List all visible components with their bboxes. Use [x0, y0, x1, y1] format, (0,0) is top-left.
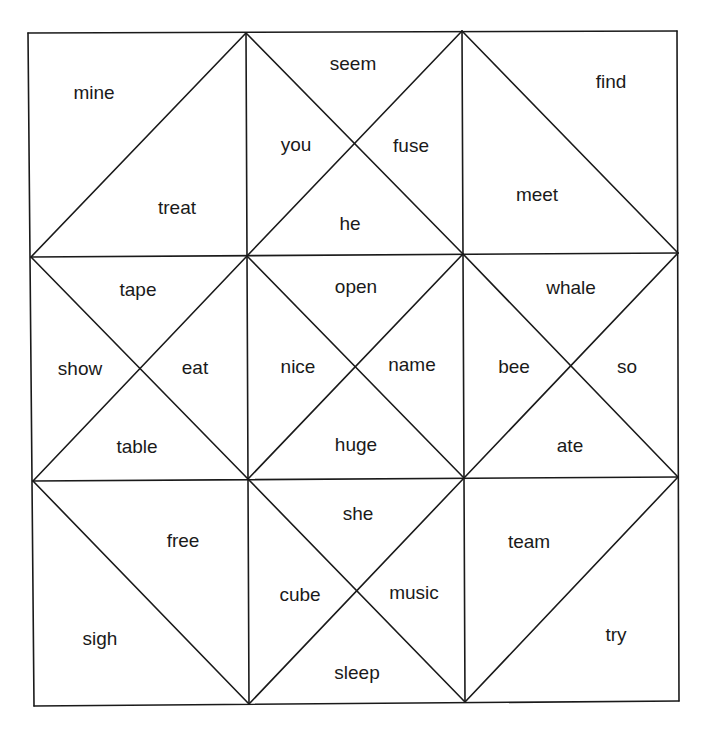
cell-diagonals [31, 31, 678, 704]
diagonal-r0c0 [31, 33, 246, 257]
word-bee: bee [498, 357, 530, 376]
diagonal-r2c0 [33, 481, 249, 704]
word-he: he [339, 214, 360, 233]
word-find: find [596, 72, 627, 91]
word-huge: huge [335, 435, 377, 454]
word-team: team [508, 532, 550, 551]
word-nice: nice [281, 357, 316, 376]
word-eat: eat [182, 358, 208, 377]
word-ate: ate [557, 436, 583, 455]
word-whale: whale [546, 278, 596, 297]
word-try: try [605, 625, 626, 644]
word-name: name [388, 355, 436, 374]
puzzle-grid [0, 0, 710, 733]
word-she: she [343, 504, 374, 523]
word-so: so [617, 357, 637, 376]
word-fuse: fuse [393, 136, 429, 155]
diagonal-r2c2 [465, 477, 678, 702]
word-cube: cube [279, 585, 320, 604]
word-tape: tape [120, 280, 157, 299]
word-you: you [281, 135, 312, 154]
word-open: open [335, 277, 377, 296]
word-mine: mine [73, 83, 114, 102]
diagonal-r0c2 [462, 31, 678, 253]
word-music: music [389, 583, 439, 602]
word-free: free [167, 531, 200, 550]
word-treat: treat [158, 198, 196, 217]
word-table: table [116, 437, 157, 456]
word-sleep: sleep [334, 663, 379, 682]
word-show: show [58, 359, 102, 378]
word-meet: meet [516, 185, 558, 204]
word-seem: seem [330, 54, 376, 73]
word-sigh: sigh [83, 629, 118, 648]
